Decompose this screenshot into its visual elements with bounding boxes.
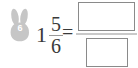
answer-denominator-slot	[76, 38, 137, 67]
whole-number: 1	[36, 24, 49, 46]
equals-sign: =	[62, 22, 73, 42]
fraction-five-sixths: 5 6	[49, 15, 63, 56]
answer-numerator-input[interactable]	[78, 2, 135, 31]
math-problem-canvas: 6 1 5 6 =	[0, 0, 138, 68]
answer-denominator-input[interactable]	[86, 38, 128, 67]
fraction-numerator: 5	[50, 15, 62, 34]
answer-fraction-bar	[76, 33, 137, 35]
problem-number-label: 6	[6, 23, 34, 33]
answer-numerator-slot	[76, 2, 137, 31]
fraction-denominator: 6	[50, 37, 62, 56]
answer-fraction-group	[76, 1, 137, 68]
bunny-avatar-icon: 6	[6, 8, 34, 42]
mixed-number-expression: 1 5 6	[36, 12, 63, 58]
